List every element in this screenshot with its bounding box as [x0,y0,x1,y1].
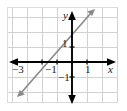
x-tick-label-pos1: 1 [85,64,91,75]
coordinate-plane-figure: −3 −1 1 1 −1 x y [0,0,127,111]
x-tick-label-neg1: −1 [45,64,57,75]
plot-frame [8,8,118,103]
y-tick-label-pos1: 1 [62,38,68,49]
y-axis-label: y [63,10,68,21]
y-tick-label-neg1: −1 [58,72,70,83]
x-axis-label: x [108,64,113,75]
x-tick-label-neg3: −3 [12,64,24,75]
